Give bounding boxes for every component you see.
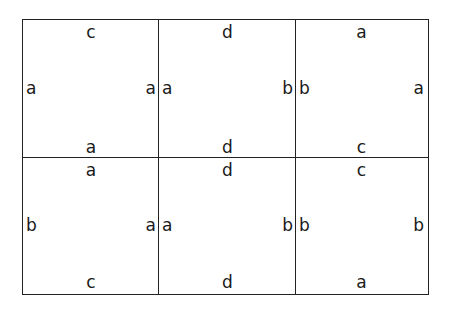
tile-top-label: d xyxy=(222,24,233,41)
tile-bottom-label: d xyxy=(222,274,233,291)
tile-left-label: b xyxy=(299,216,310,233)
tile-left-label: b xyxy=(26,216,37,233)
tile-4: a b a c xyxy=(23,158,159,293)
tile-left-label: b xyxy=(299,80,310,97)
tile-right-label: a xyxy=(414,80,424,97)
tile-grid: c a a a d a b d a b a c a b a c d a b d … xyxy=(22,19,429,295)
tile-bottom-label: a xyxy=(356,274,366,291)
tile-top-label: c xyxy=(357,162,366,179)
tile-right-label: b xyxy=(282,216,293,233)
tile-bottom-label: a xyxy=(86,139,96,156)
tile-top-label: a xyxy=(86,162,96,179)
tile-right-label: a xyxy=(146,216,156,233)
tile-5: d a b d xyxy=(159,158,296,293)
tile-3: a b a c xyxy=(296,20,427,158)
tile-top-label: c xyxy=(86,24,95,41)
tile-top-label: d xyxy=(222,162,233,179)
tile-bottom-label: c xyxy=(86,274,95,291)
tile-left-label: a xyxy=(26,80,36,97)
tile-bottom-label: c xyxy=(357,139,366,156)
tile-left-label: a xyxy=(162,80,172,97)
tile-right-label: b xyxy=(282,80,293,97)
tile-right-label: b xyxy=(413,216,424,233)
tile-6: c b b a xyxy=(296,158,427,293)
tile-2: d a b d xyxy=(159,20,296,158)
tile-1: c a a a xyxy=(23,20,159,158)
tile-right-label: a xyxy=(146,80,156,97)
tile-top-label: a xyxy=(356,24,366,41)
tile-bottom-label: d xyxy=(222,139,233,156)
tile-left-label: a xyxy=(162,216,172,233)
